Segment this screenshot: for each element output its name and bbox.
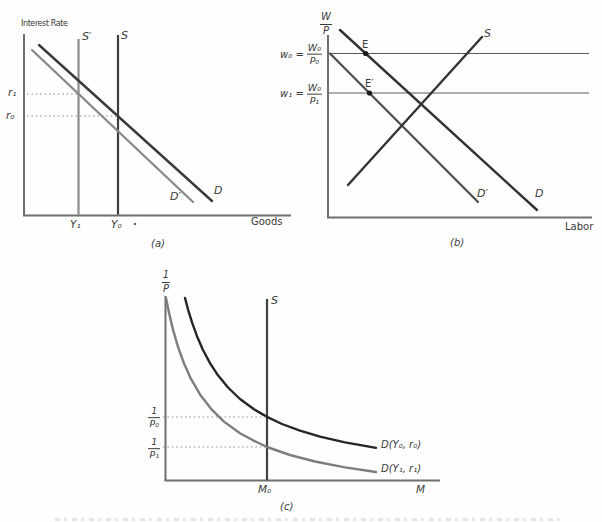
panel-a-rate-tick-1: r₁ <box>8 87 17 98</box>
panel-c-price-tick-0: 1 P₀ <box>148 401 160 429</box>
price0-num: 1 <box>150 406 158 416</box>
panel-b-supply-label: S <box>484 28 491 39</box>
panel-b-demand-line <box>340 30 537 210</box>
panel-c-demand1-curve <box>166 298 376 472</box>
panel-c-x-axis-label: M <box>416 484 425 495</box>
panel-a-y-axis-label: Interest Rate <box>21 20 68 28</box>
panel-a-demand-label: D <box>214 185 222 196</box>
panel-b-y-axis-fraction: W P <box>320 7 332 36</box>
scan-artifact <box>55 518 560 521</box>
stray-dot <box>134 223 137 226</box>
wage0-den: P₀ <box>309 56 321 66</box>
wage0-num: W₀ <box>307 43 322 53</box>
panel-b-lines <box>327 30 592 218</box>
panel-b-demand-label: D <box>535 188 543 199</box>
wage1-prefix: w₁ = <box>280 88 304 99</box>
panel-a-demand-shifted-label: D′ <box>170 191 181 202</box>
panel-b-wage1-label: w₁ = W₀ P₁ <box>280 82 322 105</box>
panel-c-demand0-label: D(Y₀, r₀) <box>381 440 421 450</box>
wage1-den: P₁ <box>309 95 321 105</box>
panel-c-money-tick: M₀ <box>258 484 271 495</box>
figure-lines <box>0 0 602 522</box>
point-e-label: E <box>362 40 368 50</box>
panel-c-caption: (c) <box>280 502 293 512</box>
panel-a-demand-shifted-line <box>32 50 193 202</box>
panel-b-supply-line <box>348 37 482 185</box>
panel-b-demand-shifted-label: D′ <box>477 188 488 199</box>
panel-a-supply-label: S <box>121 30 128 41</box>
point-e-prime-label: E′ <box>365 79 374 89</box>
panel-c-y-axis-fraction: 1 P <box>162 265 170 294</box>
point-e-prime-dot <box>367 90 372 95</box>
price1-den: P₁ <box>148 450 160 460</box>
wage1-num: W₀ <box>307 82 322 92</box>
panel-a-rate-tick-0: r₀ <box>6 110 15 121</box>
price1-num: 1 <box>150 437 158 447</box>
panel-c-y-frac-den: P <box>162 284 170 294</box>
panel-c-y-frac-num: 1 <box>162 270 170 280</box>
panel-a-x-axis-label: Goods <box>251 217 283 227</box>
panel-c-price-tick-1: 1 P₁ <box>148 432 160 460</box>
panel-b-x-axis-label: Labor <box>565 222 593 232</box>
panel-c-supply-label: S <box>271 295 278 306</box>
panel-b-wage0-label: w₀ = W₀ P₀ <box>280 43 322 66</box>
panel-a-supply-shifted-label: S′ <box>82 31 91 42</box>
panel-a-lines <box>23 34 291 225</box>
figure: Interest Rate S′ S r₁ r₀ D′ D Y₁ Y₀ Good… <box>0 0 602 522</box>
point-e-dot <box>363 51 368 56</box>
panel-a-output-tick-0: Y₀ <box>111 219 122 230</box>
panel-b-caption: (b) <box>450 238 464 248</box>
panel-c-lines <box>163 296 440 481</box>
price0-den: P₀ <box>148 419 160 429</box>
panel-a-demand-line <box>39 45 212 201</box>
panel-c-demand1-label: D(Y₁, r₁) <box>381 464 421 474</box>
panel-b-y-frac-den: P <box>322 26 330 36</box>
panel-b-y-frac-num: W <box>320 12 332 22</box>
panel-a-output-tick-1: Y₁ <box>70 219 81 230</box>
panel-a-caption: (a) <box>151 239 165 249</box>
panel-c-demand0-curve <box>185 298 376 448</box>
wage0-prefix: w₀ = <box>280 49 304 60</box>
